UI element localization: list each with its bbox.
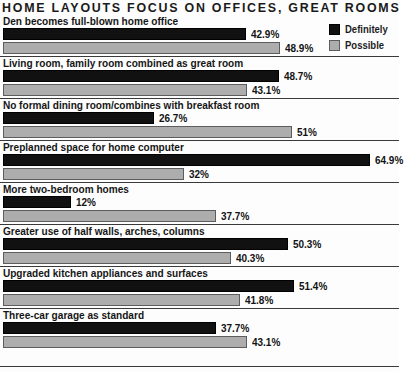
- category-label: Preplanned space for home computer: [0, 141, 383, 154]
- bar-value-label: 51%: [297, 126, 317, 138]
- bar-value-label: 41.8%: [245, 294, 273, 306]
- bar-row: 64.9%: [0, 154, 399, 167]
- bar-row: 51.4%: [0, 280, 399, 293]
- bar-group: Greater use of half walls, arches, colum…: [0, 224, 399, 265]
- bar-value-label: 32%: [189, 168, 209, 180]
- bar-definitely: [3, 154, 370, 166]
- bar-row: 43.1%: [0, 84, 399, 97]
- bar-definitely: [3, 112, 154, 124]
- category-label: No formal dining room/combines with brea…: [0, 99, 383, 112]
- bar-possible: [3, 84, 247, 96]
- bar-value-label: 48.9%: [285, 42, 313, 54]
- bar-row: 50.3%: [0, 238, 399, 251]
- bar-value-label: 48.7%: [284, 70, 312, 82]
- bar-row: 37.7%: [0, 210, 399, 223]
- category-label: Living room, family room combined as gre…: [0, 57, 383, 70]
- bar-definitely: [3, 322, 216, 334]
- bar-possible: [3, 252, 231, 264]
- bar-value-label: 51.4%: [299, 280, 327, 292]
- bar-value-label: 12%: [76, 196, 96, 208]
- category-label: More two-bedroom homes: [0, 183, 383, 196]
- bar-value-label: 37.7%: [221, 210, 249, 222]
- bar-row: 51%: [0, 126, 399, 139]
- bar-definitely: [3, 70, 279, 82]
- bar-group: Den becomes full-blown home office42.9%4…: [0, 15, 399, 55]
- bar-group: Three-car garage as standard37.7%43.1%: [0, 308, 399, 349]
- category-label: Greater use of half walls, arches, colum…: [0, 225, 383, 238]
- category-label: Den becomes full-blown home office: [0, 15, 383, 28]
- category-label: Three-car garage as standard: [0, 309, 383, 322]
- bar-row: 42.9%: [0, 28, 399, 41]
- bar-possible: [3, 126, 292, 138]
- bar-group: Upgraded kitchen appliances and surfaces…: [0, 266, 399, 307]
- bar-possible: [3, 294, 240, 306]
- bar-value-label: 64.9%: [375, 154, 403, 166]
- bar-definitely: [3, 28, 246, 40]
- bar-group: Living room, family room combined as gre…: [0, 56, 399, 97]
- bar-possible: [3, 42, 280, 54]
- bar-row: 41.8%: [0, 294, 399, 307]
- bar-possible: [3, 168, 184, 180]
- bar-possible: [3, 336, 247, 348]
- bar-definitely: [3, 280, 294, 292]
- bar-row: 26.7%: [0, 112, 399, 125]
- bar-definitely: [3, 196, 71, 208]
- bar-value-label: 50.3%: [293, 238, 321, 250]
- bottom-divider: [0, 366, 399, 367]
- page-title: HOME LAYOUTS FOCUS ON OFFICES, GREAT ROO…: [2, 0, 365, 15]
- bar-row: 37.7%: [0, 322, 399, 335]
- bar-possible: [3, 210, 216, 222]
- bar-row: 32%: [0, 168, 399, 181]
- bar-group: More two-bedroom homes12%37.7%: [0, 182, 399, 223]
- bar-group: No formal dining room/combines with brea…: [0, 98, 399, 139]
- bar-value-label: 43.1%: [252, 336, 280, 348]
- plot-area: Den becomes full-blown home office42.9%4…: [0, 15, 399, 350]
- bar-value-label: 43.1%: [252, 84, 280, 96]
- bar-row: 40.3%: [0, 252, 399, 265]
- category-label: Upgraded kitchen appliances and surfaces: [0, 267, 383, 280]
- bar-definitely: [3, 238, 288, 250]
- bar-row: 48.7%: [0, 70, 399, 83]
- bar-value-label: 42.9%: [251, 28, 279, 40]
- bar-value-label: 40.3%: [236, 252, 264, 264]
- bar-value-label: 37.7%: [221, 322, 249, 334]
- bar-value-label: 26.7%: [159, 112, 187, 124]
- bar-row: 43.1%: [0, 336, 399, 349]
- bar-row: 48.9%: [0, 42, 399, 55]
- bar-group: Preplanned space for home computer64.9%3…: [0, 140, 399, 181]
- bar-row: 12%: [0, 196, 399, 209]
